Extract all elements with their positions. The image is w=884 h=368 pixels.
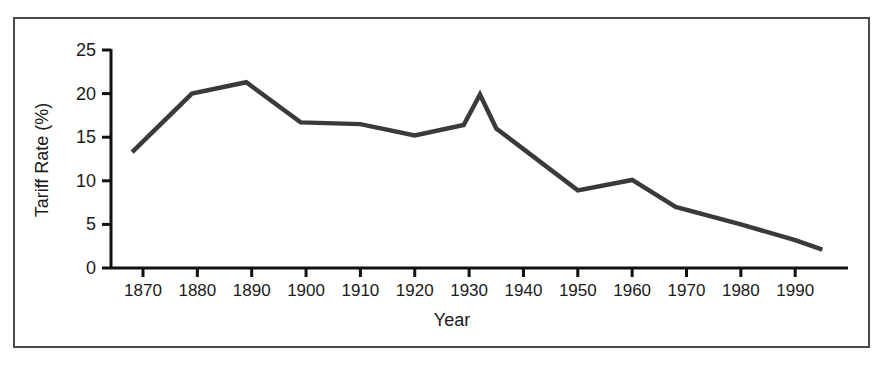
y-tick-label: 5 bbox=[86, 214, 96, 234]
x-tick-label: 1920 bbox=[396, 281, 434, 300]
y-tick-label: 20 bbox=[76, 84, 96, 104]
y-tick-label: 10 bbox=[76, 171, 96, 191]
x-tick-label: 1890 bbox=[233, 281, 271, 300]
line-chart-svg: 0510152025 18701880189019001910192019301… bbox=[0, 0, 884, 368]
x-tick-label: 1980 bbox=[722, 281, 760, 300]
x-tick-label: 1930 bbox=[450, 281, 488, 300]
x-axis: 1870188018901900191019201930194019501960… bbox=[111, 268, 848, 300]
series-line-tariff-rate bbox=[132, 82, 822, 249]
x-axis-title: Year bbox=[434, 310, 470, 330]
data-series-line bbox=[132, 82, 822, 249]
chart-plot-area: 0510152025 18701880189019001910192019301… bbox=[0, 0, 884, 368]
x-tick-label: 1940 bbox=[505, 281, 543, 300]
x-tick-label: 1970 bbox=[668, 281, 706, 300]
x-tick-label: 1950 bbox=[559, 281, 597, 300]
x-tick-label: 1960 bbox=[613, 281, 651, 300]
figure-root: 0510152025 18701880189019001910192019301… bbox=[0, 0, 884, 368]
y-tick-label: 25 bbox=[76, 40, 96, 60]
x-tick-label: 1900 bbox=[287, 281, 325, 300]
y-axis-title: Tariff Rate (%) bbox=[32, 103, 52, 218]
x-tick-label: 1990 bbox=[776, 281, 814, 300]
x-tick-label: 1910 bbox=[341, 281, 379, 300]
y-tick-label: 15 bbox=[76, 127, 96, 147]
x-tick-label: 1870 bbox=[124, 281, 162, 300]
y-tick-label: 0 bbox=[86, 258, 96, 278]
y-axis: 0510152025 bbox=[76, 40, 111, 278]
x-tick-label: 1880 bbox=[178, 281, 216, 300]
